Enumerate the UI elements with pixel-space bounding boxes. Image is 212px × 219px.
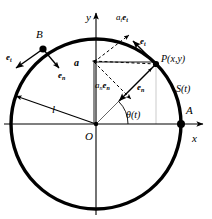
y-axis-label: y: [85, 11, 91, 23]
unit-tangent-vector-B: [16, 49, 43, 68]
svg-text:et: et: [140, 36, 146, 47]
point-label-B: B: [36, 28, 43, 40]
svg-text:en: en: [58, 70, 66, 81]
diagram-canvas: y x O P(x,y) A B S(t) θ(t) l a atet anen: [0, 0, 212, 219]
enB-sub: n: [62, 75, 66, 81]
point-marker-A: [177, 120, 185, 128]
unit-normal-label-P: en: [137, 82, 145, 93]
radius-label: l: [52, 103, 55, 115]
unit-tangent-label-P: et: [140, 36, 146, 47]
normal-component-label: anen: [95, 80, 111, 91]
svg-text:et: et: [6, 52, 12, 63]
radius-line: [16, 96, 96, 124]
svg-text:en: en: [137, 82, 145, 93]
angle-label: θ(t): [126, 109, 141, 121]
point-label-P: P(x,y): [160, 53, 186, 65]
enP-sub: n: [141, 87, 145, 93]
x-axis-label: x: [191, 132, 197, 144]
acceleration-label: a: [74, 57, 79, 68]
resultant-acceleration-vector: [92, 61, 156, 64]
etB-sub: t: [10, 57, 12, 63]
arc-length-label: S(t): [176, 83, 191, 95]
point-label-A: A: [185, 104, 193, 116]
svg-text:atet: atet: [116, 12, 128, 23]
origin-label: O: [85, 130, 93, 142]
en-vec-sub: n: [107, 85, 111, 91]
circular-motion-diagram: y x O P(x,y) A B S(t) θ(t) l a atet anen: [0, 0, 212, 219]
tangential-component-label: atet: [116, 12, 128, 23]
point-marker-O: [94, 122, 98, 126]
svg-text:anen: anen: [95, 80, 111, 91]
axis-group: [4, 13, 203, 215]
normal-component-vector: [94, 62, 131, 99]
etP-sub: t: [144, 41, 146, 47]
unit-normal-label-B: en: [58, 70, 66, 81]
et-vec-sub: t: [126, 17, 128, 23]
unit-tangent-label-B: et: [6, 52, 12, 63]
